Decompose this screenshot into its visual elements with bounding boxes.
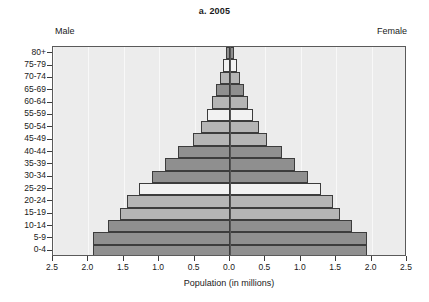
bar-male bbox=[165, 158, 230, 170]
y-tick-mark bbox=[47, 176, 52, 177]
y-tick-mark bbox=[47, 65, 52, 66]
y-tick-label: 55-59 bbox=[0, 109, 46, 118]
x-tick-mark bbox=[229, 256, 230, 261]
x-tick-label: 1.5 bbox=[315, 262, 355, 272]
y-tick-label: 65-69 bbox=[0, 85, 46, 94]
y-tick-label: 60-64 bbox=[0, 97, 46, 106]
bar-male bbox=[127, 195, 230, 207]
bar-female bbox=[230, 84, 244, 96]
x-tick-label: 0.5 bbox=[174, 262, 214, 272]
y-tick-mark bbox=[47, 237, 52, 238]
y-tick-mark bbox=[47, 89, 52, 90]
bar-female bbox=[230, 171, 308, 183]
bar-male bbox=[207, 109, 230, 121]
y-tick-mark bbox=[47, 213, 52, 214]
bar-row bbox=[53, 195, 405, 207]
x-tick-mark bbox=[194, 256, 195, 261]
y-tick-label: 20-24 bbox=[0, 196, 46, 205]
y-tick-label: 5-9 bbox=[0, 233, 46, 242]
y-tick-label: 0-4 bbox=[0, 245, 46, 254]
x-tick-label: 1.5 bbox=[103, 262, 143, 272]
y-tick-label: 15-19 bbox=[0, 208, 46, 217]
y-axis-labels: 80+75-7970-7465-6960-6455-5950-5445-4940… bbox=[0, 46, 46, 256]
bar-female bbox=[230, 158, 295, 170]
bar-row bbox=[53, 232, 405, 244]
bar-female bbox=[230, 59, 237, 71]
bar-row bbox=[53, 109, 405, 121]
x-tick-label: 1.0 bbox=[280, 262, 320, 272]
male-side-label: Male bbox=[55, 26, 75, 36]
y-tick-mark bbox=[47, 151, 52, 152]
bar-female bbox=[230, 245, 367, 256]
bar-female bbox=[230, 109, 253, 121]
y-tick-mark bbox=[47, 102, 52, 103]
x-axis-title: Population (in millions) bbox=[52, 278, 406, 288]
bar-row bbox=[53, 158, 405, 170]
x-tick-label: 0.0 bbox=[209, 262, 249, 272]
x-axis-ticks bbox=[52, 256, 406, 261]
bar-row bbox=[53, 121, 405, 133]
x-tick-label: 2.5 bbox=[386, 262, 426, 272]
bar-male bbox=[220, 72, 230, 84]
bar-male bbox=[201, 121, 230, 133]
bar-male bbox=[152, 171, 230, 183]
y-tick-label: 80+ bbox=[0, 48, 46, 57]
bar-female bbox=[230, 146, 282, 158]
bar-male bbox=[178, 146, 230, 158]
female-side-label: Female bbox=[377, 26, 407, 36]
x-tick-mark bbox=[123, 256, 124, 261]
bar-male bbox=[93, 245, 230, 256]
x-tick-label: 0.5 bbox=[244, 262, 284, 272]
bar-row bbox=[53, 96, 405, 108]
bar-male bbox=[93, 232, 230, 244]
bar-female bbox=[230, 232, 367, 244]
bar-row bbox=[53, 47, 405, 59]
y-tick-mark bbox=[47, 139, 52, 140]
x-tick-label: 2.5 bbox=[32, 262, 72, 272]
x-tick-mark bbox=[406, 256, 407, 261]
bar-row bbox=[53, 72, 405, 84]
x-tick-mark bbox=[371, 256, 372, 261]
x-tick-mark bbox=[264, 256, 265, 261]
bar-female bbox=[230, 195, 333, 207]
y-tick-label: 50-54 bbox=[0, 122, 46, 131]
bar-female bbox=[230, 208, 340, 220]
y-tick-mark bbox=[47, 200, 52, 201]
bar-male bbox=[223, 59, 230, 71]
x-tick-mark bbox=[158, 256, 159, 261]
x-tick-label: 2.0 bbox=[67, 262, 107, 272]
y-tick-mark bbox=[47, 126, 52, 127]
plot-area bbox=[52, 46, 406, 256]
x-tick-label: 1.0 bbox=[138, 262, 178, 272]
y-axis-ticks bbox=[46, 46, 52, 256]
y-tick-mark bbox=[47, 250, 52, 251]
bar-male bbox=[212, 96, 230, 108]
bar-row bbox=[53, 133, 405, 145]
bar-female bbox=[230, 96, 248, 108]
y-tick-label: 40-44 bbox=[0, 147, 46, 156]
y-tick-mark bbox=[47, 163, 52, 164]
y-tick-label: 45-49 bbox=[0, 134, 46, 143]
y-tick-label: 35-39 bbox=[0, 159, 46, 168]
bar-row bbox=[53, 220, 405, 232]
x-tick-label: 2.0 bbox=[351, 262, 391, 272]
bar-male bbox=[139, 183, 230, 195]
x-tick-mark bbox=[52, 256, 53, 261]
y-tick-label: 70-74 bbox=[0, 72, 46, 81]
bar-male bbox=[193, 133, 230, 145]
bar-female bbox=[230, 133, 267, 145]
bar-female bbox=[230, 72, 240, 84]
chart-title: a. 2005 bbox=[0, 6, 429, 16]
bar-female bbox=[230, 220, 352, 232]
y-tick-mark bbox=[47, 188, 52, 189]
bar-row bbox=[53, 183, 405, 195]
y-tick-mark bbox=[47, 77, 52, 78]
x-axis-tick-labels: 2.52.01.51.00.50.00.51.01.52.02.5 bbox=[0, 262, 429, 274]
y-tick-mark bbox=[47, 114, 52, 115]
bar-male bbox=[216, 84, 230, 96]
center-axis-line bbox=[230, 47, 231, 255]
y-tick-mark bbox=[47, 52, 52, 53]
bar-row bbox=[53, 171, 405, 183]
bar-female bbox=[230, 183, 321, 195]
x-tick-mark bbox=[335, 256, 336, 261]
